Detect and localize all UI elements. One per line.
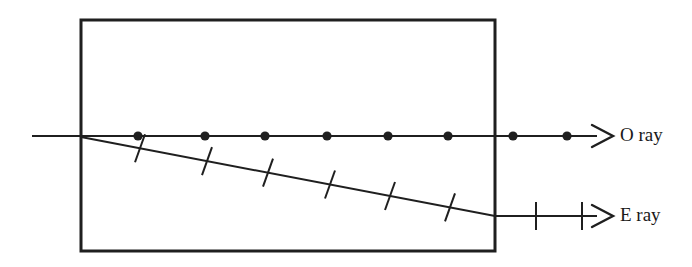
o-ray-dot-marker bbox=[508, 131, 517, 140]
o-ray-dot-marker bbox=[383, 131, 392, 140]
o-ray-label: O ray bbox=[620, 124, 663, 145]
o-ray-dot-marker bbox=[322, 131, 331, 140]
o-ray-group: O ray bbox=[32, 124, 663, 147]
ray-diagram: O ray E ray bbox=[0, 0, 692, 267]
e-ray-label: E ray bbox=[620, 204, 661, 225]
o-ray-dot-marker bbox=[260, 131, 269, 140]
o-ray-dot-marker bbox=[562, 131, 571, 140]
o-ray-dot-marker bbox=[443, 131, 452, 140]
figure-container: O ray E ray bbox=[0, 0, 692, 267]
o-ray-dot-marker bbox=[133, 131, 142, 140]
o-ray-dot-marker bbox=[200, 131, 209, 140]
e-ray-line bbox=[81, 137, 597, 216]
e-ray-group: E ray bbox=[81, 134, 661, 230]
